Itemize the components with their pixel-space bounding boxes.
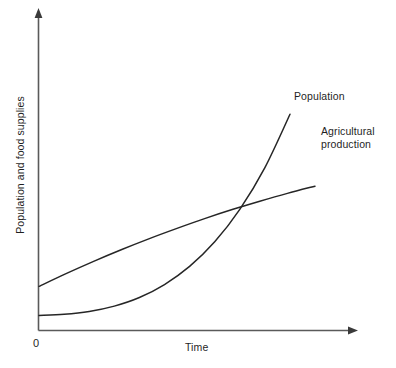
chart-canvas — [0, 0, 396, 368]
series-label-agricultural-production: Agricultural production — [321, 125, 375, 150]
chart-figure: Population Agricultural production Time … — [0, 0, 396, 368]
series-line-population — [39, 114, 290, 315]
y-axis-label: Population and food supplies — [14, 80, 27, 250]
y-axis-arrowhead — [35, 8, 43, 18]
series-line-agricultural-production — [39, 186, 315, 286]
origin-label: 0 — [33, 337, 39, 350]
series-label-population: Population — [294, 90, 345, 103]
x-axis-arrowhead — [348, 327, 358, 335]
x-axis-label: Time — [185, 341, 208, 354]
